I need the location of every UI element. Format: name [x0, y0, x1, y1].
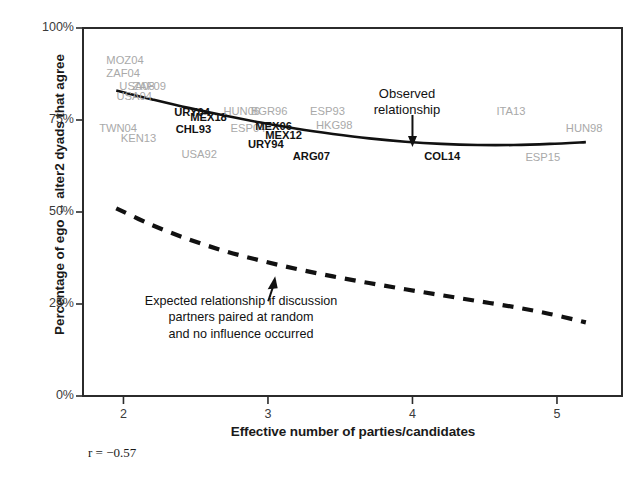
data-point-label: BGR96 [251, 106, 288, 117]
correlation-statistic: r = −0.57 [88, 445, 136, 461]
expected-annotation-line-2: partners paired at random [106, 309, 376, 325]
data-point-label: ITA13 [497, 106, 526, 117]
expected-annotation-line-1: Expected relationship if discussion [106, 293, 376, 309]
data-point-label: HUN98 [566, 123, 603, 134]
chart-figure: Percentage of ego ↔ alter2 dyads that ag… [0, 0, 640, 480]
expected-annotation-arrowhead [268, 276, 278, 289]
data-point-label: HKG98 [316, 120, 353, 131]
data-point-label: USA92 [181, 149, 216, 160]
data-point-label: KEN13 [121, 133, 156, 144]
plot-area [0, 0, 640, 480]
observed-annotation-line-1: Observed [352, 86, 462, 102]
data-point-label: ESP15 [525, 152, 560, 163]
data-point-label: ESP93 [310, 106, 345, 117]
data-point-label: MEX18 [190, 112, 227, 123]
data-point-label: CHL93 [176, 124, 211, 135]
expected-relationship-annotation: Expected relationship if discussion part… [106, 293, 376, 342]
data-point-label: USA04 [116, 91, 151, 102]
data-point-label: ARG07 [293, 151, 330, 162]
data-point-label: ZAF04 [106, 68, 140, 79]
data-point-label: MOZ04 [106, 55, 143, 66]
data-point-label: URY94 [248, 139, 284, 150]
data-point-label: COL14 [424, 151, 460, 162]
x-axis-title: Effective number of parties/candidates [83, 424, 623, 439]
observed-annotation-line-2: relationship [352, 102, 462, 118]
observed-relationship-annotation: Observed relationship [352, 86, 462, 118]
expected-annotation-line-3: and no influence occurred [106, 326, 376, 342]
